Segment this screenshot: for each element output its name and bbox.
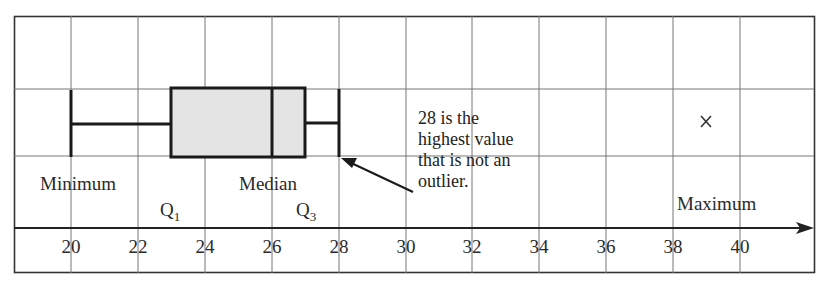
median-label: Median	[239, 173, 297, 194]
tick-36: 36	[597, 236, 616, 258]
tick-28: 28	[330, 236, 349, 258]
q1-letter: Q	[160, 199, 174, 220]
tick-38: 38	[664, 236, 683, 258]
annotation-note: 28 is the highest value that is not an o…	[418, 108, 558, 192]
q1-label: Q1	[160, 199, 180, 227]
minimum-label: Minimum	[40, 173, 116, 194]
annotation-line-3: that is not an	[418, 150, 558, 171]
q1-subscript: 1	[174, 209, 181, 224]
iqr-box	[171, 88, 305, 157]
annotation-line-4: outlier.	[418, 171, 558, 192]
tick-24: 24	[196, 236, 215, 258]
tick-26: 26	[263, 236, 282, 258]
chart-frame	[15, 17, 815, 273]
tick-40: 40	[731, 236, 750, 258]
tick-20: 20	[62, 236, 81, 258]
q3-subscript: 3	[310, 209, 317, 224]
tick-22: 22	[129, 236, 148, 258]
tick-34: 34	[530, 236, 549, 258]
q3-letter: Q	[296, 199, 310, 220]
tick-30: 30	[397, 236, 416, 258]
annotation-line-1: 28 is the	[418, 108, 558, 129]
maximum-label: Maximum	[677, 193, 756, 214]
q3-label: Q3	[296, 199, 316, 227]
annotation-line-2: highest value	[418, 129, 558, 150]
tick-32: 32	[463, 236, 482, 258]
